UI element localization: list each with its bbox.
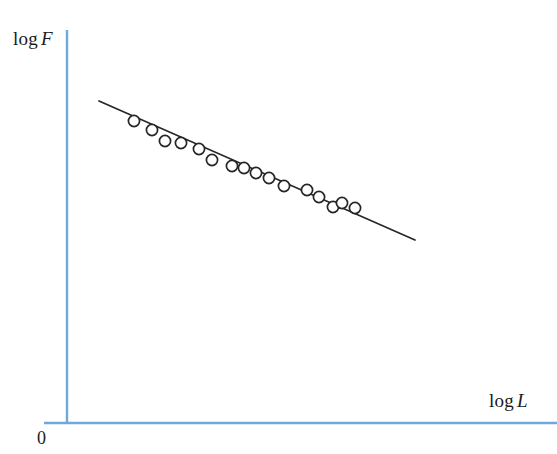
x-axis-label-prefix: log [489,390,514,411]
data-point-marker [301,184,312,195]
data-point-marker [313,191,324,202]
data-point-marker [226,160,237,171]
data-point-marker [206,154,217,165]
x-axis-label: logL [489,390,528,412]
data-point-marker [263,172,274,183]
plot-canvas [0,0,557,454]
y-axis-label-prefix: log [13,28,38,49]
x-axis-label-variable: L [514,390,528,411]
origin-label: 0 [37,428,46,449]
figure-panel: logF logL 0 [0,0,557,454]
axes-group [44,30,557,423]
data-point-marker [175,137,186,148]
data-point-marker [336,197,347,208]
data-point-marker [146,124,157,135]
y-axis-label: logF [13,28,53,50]
data-point-marker [238,162,249,173]
y-axis-label-variable: F [38,28,53,49]
data-point-marker [278,180,289,191]
data-point-marker [193,143,204,154]
data-point-marker [159,135,170,146]
data-point-marker [349,202,360,213]
data-point-marker [250,167,261,178]
data-point-marker [128,115,139,126]
